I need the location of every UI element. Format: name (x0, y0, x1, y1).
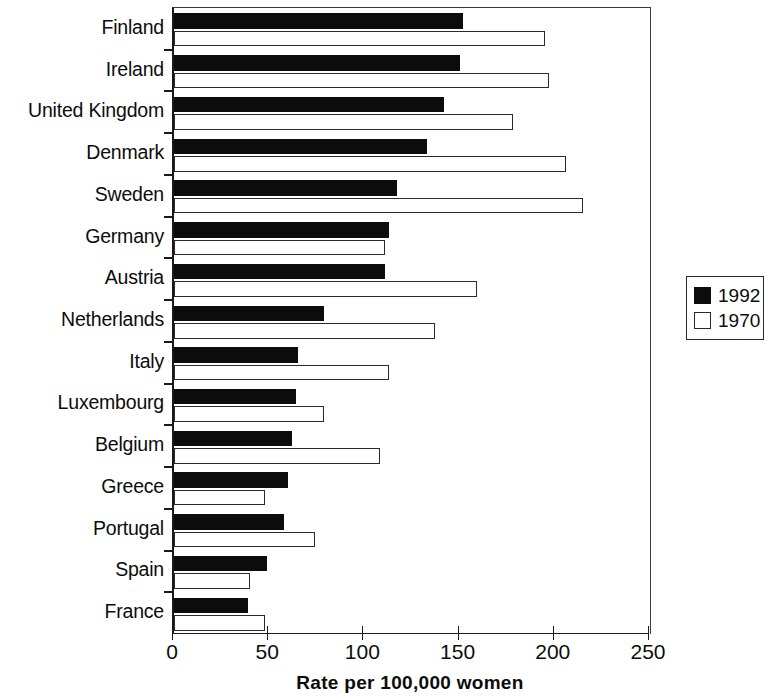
bar-1992 (174, 97, 444, 113)
bar-1970 (174, 448, 380, 464)
y-axis-labels: FinlandIrelandUnited KingdomDenmarkSwede… (0, 0, 164, 698)
x-axis-tick (553, 626, 554, 640)
legend-label-1970: 1970 (718, 311, 760, 330)
x-axis-tick (648, 626, 649, 640)
bar-1970 (174, 240, 385, 256)
x-axis-title: Rate per 100,000 women (172, 672, 648, 694)
y-axis-label-belgium: Belgium (95, 435, 164, 455)
x-axis-tick (267, 626, 268, 640)
bar-1970 (174, 156, 566, 172)
bar-1970 (174, 490, 265, 506)
bar-1970 (174, 323, 435, 339)
bar-1992 (174, 13, 463, 29)
x-axis-tick-label: 100 (327, 641, 397, 662)
bar-1970 (174, 31, 545, 47)
bar-1992 (174, 556, 267, 572)
y-axis-label-germany: Germany (85, 227, 164, 247)
y-axis-label-spain: Spain (115, 560, 164, 580)
x-axis-tick (172, 626, 173, 640)
x-axis-line (172, 633, 649, 634)
legend-item-1992: 1992 (694, 283, 759, 308)
y-axis-label-sweden: Sweden (95, 185, 164, 205)
bar-1970 (174, 406, 324, 422)
y-axis-label-greece: Greece (101, 477, 164, 497)
y-axis-label-austria: Austria (105, 268, 164, 288)
bar-1992 (174, 514, 284, 530)
bar-chart: FinlandIrelandUnited KingdomDenmarkSwede… (0, 0, 766, 698)
bar-1992 (174, 472, 288, 488)
y-axis-label-ireland: Ireland (106, 60, 164, 80)
bar-1970 (174, 573, 250, 589)
bar-1992 (174, 222, 389, 238)
y-axis-label-netherlands: Netherlands (61, 310, 164, 330)
bar-1992 (174, 389, 296, 405)
bar-1992 (174, 431, 292, 447)
bar-1970 (174, 114, 513, 130)
y-axis-label-portugal: Portugal (93, 519, 164, 539)
y-axis-label-denmark: Denmark (86, 143, 164, 163)
x-axis-tick-label: 0 (137, 641, 207, 662)
y-axis-label-italy: Italy (129, 352, 164, 372)
bar-1992 (174, 180, 397, 196)
bar-1970 (174, 198, 583, 214)
bar-1992 (174, 139, 427, 155)
plot-area (172, 7, 651, 634)
x-axis-tick-label: 200 (518, 641, 588, 662)
legend-swatch-1992 (694, 287, 711, 304)
legend-swatch-1970 (694, 312, 711, 329)
chart-legend: 19921970 (686, 276, 764, 340)
bar-1970 (174, 615, 265, 631)
y-axis-label-finland: Finland (101, 18, 164, 38)
x-axis-tick-label: 250 (613, 641, 683, 662)
bar-1992 (174, 598, 248, 614)
x-axis-tick-label: 150 (423, 641, 493, 662)
x-axis-tick-label: 50 (232, 641, 302, 662)
y-axis-label-united-kingdom: United Kingdom (28, 101, 164, 121)
bar-1970 (174, 281, 477, 297)
bar-1970 (174, 532, 315, 548)
bar-1992 (174, 347, 298, 363)
x-axis-tick (458, 626, 459, 640)
bar-1970 (174, 365, 389, 381)
bar-1992 (174, 306, 324, 322)
y-axis-label-france: France (105, 602, 165, 622)
y-axis-label-luxembourg: Luxembourg (58, 393, 164, 413)
legend-item-1970: 1970 (694, 308, 759, 333)
bar-1970 (174, 73, 549, 89)
bar-1992 (174, 264, 385, 280)
x-axis-tick (362, 626, 363, 640)
bar-1992 (174, 55, 460, 71)
legend-label-1992: 1992 (718, 286, 760, 305)
